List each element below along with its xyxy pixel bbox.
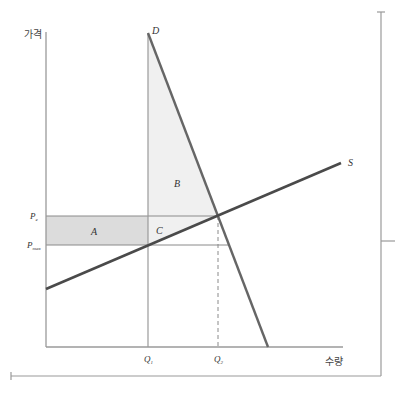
supply-label: S	[348, 157, 353, 168]
region-b-label: B	[174, 178, 180, 189]
price-ceiling-diagram: 가격 수량 D S A B C Pe Pmax Q1 Q2	[0, 0, 395, 394]
y-axis-label: 가격	[24, 28, 42, 40]
pmax-sub: max	[33, 246, 42, 251]
q2-sub: 2	[221, 360, 224, 365]
pe-sub: e	[36, 217, 39, 222]
x-axis-label: 수량	[325, 356, 343, 367]
pmax-tick-label: Pmax	[26, 240, 42, 251]
q2-tick-label: Q2	[214, 354, 224, 365]
q1-sub: 1	[151, 360, 154, 365]
pe-tick-label: Pe	[29, 211, 39, 222]
region-c-label: C	[156, 225, 163, 236]
region-a-label: A	[90, 226, 98, 237]
demand-label: D	[151, 25, 160, 36]
q1-tick-label: Q1	[144, 354, 153, 365]
